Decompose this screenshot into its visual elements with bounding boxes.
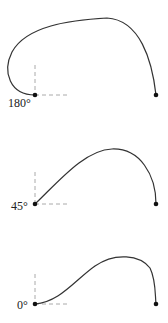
trajectory-curve — [8, 18, 156, 95]
trajectory-curve — [35, 149, 156, 204]
start-point — [33, 202, 38, 207]
end-point — [154, 302, 159, 307]
start-point — [33, 93, 38, 98]
trajectory-diagram — [0, 0, 168, 323]
end-point — [154, 202, 159, 207]
trajectory-180 — [8, 18, 158, 97]
angle-label-45: 45° — [11, 200, 28, 212]
angle-label-0: 0° — [17, 299, 28, 311]
start-point — [33, 302, 38, 307]
trajectory-0 — [33, 257, 159, 307]
end-point — [154, 93, 159, 98]
trajectory-curve — [35, 257, 156, 304]
trajectory-45 — [33, 149, 159, 206]
angle-label-180: 180° — [8, 97, 31, 109]
